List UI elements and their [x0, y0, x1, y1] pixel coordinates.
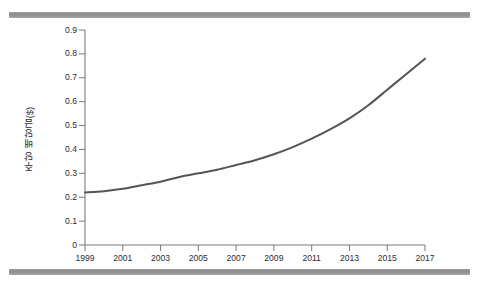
y-tick-label-0: 0 — [51, 240, 77, 250]
x-tick-label-1999: 1999 — [68, 253, 102, 263]
x-tick-label-2003: 2003 — [144, 253, 178, 263]
data-line-dividend-per-share — [85, 59, 425, 193]
x-tick-label-2009: 2009 — [257, 253, 291, 263]
x-tick-label-2011: 2011 — [295, 253, 329, 263]
chart-axes — [79, 30, 425, 251]
line-chart: 주당 배당금($) 00.10.20.30.40.50.60.70.80.9 1… — [0, 0, 489, 286]
x-tick-label-2017: 2017 — [408, 253, 442, 263]
x-tick-label-2013: 2013 — [332, 253, 366, 263]
y-tick-label-0.7: 0.7 — [51, 72, 77, 82]
x-tick-label-2005: 2005 — [181, 253, 215, 263]
y-tick-label-0.9: 0.9 — [51, 25, 77, 35]
y-axis-title: 주당 배당금($) — [22, 96, 38, 182]
x-tick-label-2001: 2001 — [106, 253, 140, 263]
y-tick-label-0.2: 0.2 — [51, 192, 77, 202]
y-tick-label-0.5: 0.5 — [51, 120, 77, 130]
y-tick-label-0.6: 0.6 — [51, 96, 77, 106]
x-tick-label-2015: 2015 — [370, 253, 404, 263]
y-tick-label-0.1: 0.1 — [51, 216, 77, 226]
x-tick-label-2007: 2007 — [219, 253, 253, 263]
chart-series — [85, 59, 425, 193]
screenshot-page: 주당 배당금($) 00.10.20.30.40.50.60.70.80.9 1… — [0, 0, 489, 286]
y-tick-label-0.4: 0.4 — [51, 144, 77, 154]
y-tick-label-0.8: 0.8 — [51, 48, 77, 58]
y-tick-label-0.3: 0.3 — [51, 168, 77, 178]
